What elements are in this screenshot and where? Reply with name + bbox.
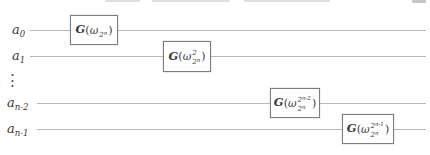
paren-close: ) xyxy=(312,98,316,109)
wire-label-subscript: n-1 xyxy=(15,128,29,138)
omega-symbol: ω xyxy=(361,124,370,135)
gate-box-g-omega-2n1: G(ω2n-12n) xyxy=(342,114,394,144)
wire-label-a0: a0 xyxy=(12,22,25,42)
gate-label: G(ω22n) xyxy=(169,48,206,65)
wire-label-a1: a1 xyxy=(12,48,25,68)
gate-name: G xyxy=(274,97,284,109)
cropped-text-artifact xyxy=(152,0,230,2)
omega-superscript: 2 xyxy=(192,48,200,57)
paren-close: ) xyxy=(108,25,112,36)
gate-name: G xyxy=(76,24,86,36)
omega-symbol: ω xyxy=(183,51,192,62)
wire-a1 xyxy=(30,56,426,57)
wire-label-an1: an-1 xyxy=(7,121,29,141)
vertical-ellipsis: ⋮ xyxy=(5,70,20,91)
omega-subscript: 2n xyxy=(99,30,107,39)
wire-label-subscript: 1 xyxy=(20,55,25,65)
wire-an2 xyxy=(37,103,426,104)
quantum-circuit-figure: a0 a1 ⋮ an-2 an-1 G(ω2n) G(ω22n) G(ω2n-2… xyxy=(0,0,430,155)
gate-box-g-omega-2n2: G(ω2n-22n) xyxy=(270,88,320,118)
omega-subscript: 2n xyxy=(298,104,311,113)
omega-superscript: 2n-1 xyxy=(371,121,384,130)
omega-subscript: 2n xyxy=(371,130,384,139)
gate-box-g-omega2: G(ω22n) xyxy=(163,41,211,72)
omega-scripts: 2n xyxy=(99,22,107,39)
wire-label-base: a xyxy=(7,121,15,136)
cropped-text-artifact xyxy=(105,0,140,2)
omega-scripts: 2n-12n xyxy=(371,121,384,138)
gate-name: G xyxy=(347,123,357,135)
wire-label-base: a xyxy=(7,95,15,110)
wire-label-an2: an-2 xyxy=(7,95,29,115)
cropped-text-artifact xyxy=(412,0,426,3)
wire-label-base: a xyxy=(12,22,20,37)
wire-label-base: a xyxy=(12,48,20,63)
omega-subscript: 2n xyxy=(192,57,200,66)
omega-scripts: 2n-22n xyxy=(298,95,311,112)
paren-close: ) xyxy=(385,124,389,135)
wire-label-subscript: 0 xyxy=(20,29,25,39)
omega-symbol: ω xyxy=(90,25,99,36)
gate-label: G(ω2n-12n) xyxy=(347,121,389,138)
omega-symbol: ω xyxy=(288,98,297,109)
omega-scripts: 22n xyxy=(192,48,200,65)
gate-label: G(ω2n-22n) xyxy=(274,95,316,112)
gate-label: G(ω2n) xyxy=(76,22,113,39)
cropped-text-artifact xyxy=(244,0,330,2)
gate-box-g-omega: G(ω2n) xyxy=(70,15,118,45)
omega-superscript: 2n-2 xyxy=(298,95,311,104)
paren-close: ) xyxy=(201,51,205,62)
gate-name: G xyxy=(169,51,179,63)
wire-label-subscript: n-2 xyxy=(15,102,29,112)
